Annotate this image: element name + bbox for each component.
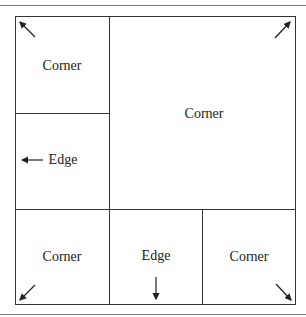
region-label-top-left: Corner <box>43 58 82 74</box>
arrows-layer <box>0 0 306 317</box>
region-label-bottom-right: Corner <box>230 249 269 265</box>
region-label-bottom-middle: Edge <box>142 248 171 264</box>
arrow-down-left-icon <box>20 285 35 300</box>
arrow-up-right-icon <box>275 22 290 38</box>
arrow-up-left-icon <box>20 22 35 37</box>
region-label-center: Corner <box>185 106 224 122</box>
region-label-bottom-left: Corner <box>43 249 82 265</box>
region-label-middle-left: Edge <box>49 152 78 168</box>
arrow-down-right-icon <box>276 284 291 300</box>
